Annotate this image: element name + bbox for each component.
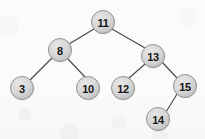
tree-diagram-canvas: 11813310121514: [0, 0, 205, 139]
node-label: 10: [82, 83, 94, 95]
tree-edge: [69, 29, 94, 44]
node-label: 8: [57, 45, 63, 57]
tree-node[interactable]: 3: [10, 77, 35, 102]
node-label: 13: [147, 51, 159, 63]
node-label: 3: [19, 83, 25, 95]
tree-node[interactable]: 12: [112, 77, 137, 102]
tree-graphic: 11813310121514: [0, 0, 205, 139]
tree-node[interactable]: 8: [49, 39, 74, 64]
node-label: 15: [179, 81, 191, 93]
node-label: 11: [97, 17, 108, 29]
tree-edge: [112, 29, 145, 48]
node-label: 12: [117, 83, 129, 95]
tree-node[interactable]: 15: [174, 75, 199, 100]
tree-node[interactable]: 10: [77, 77, 102, 102]
tree-edge: [68, 59, 85, 77]
node-label: 14: [152, 114, 165, 126]
tree-node[interactable]: 14: [147, 108, 172, 133]
tree-node[interactable]: 11: [92, 11, 117, 36]
tree-edge: [166, 94, 177, 112]
tree-node[interactable]: 13: [142, 45, 167, 70]
tree-edge: [162, 62, 177, 78]
tree-edge: [128, 64, 145, 79]
tree-edge: [30, 58, 52, 80]
